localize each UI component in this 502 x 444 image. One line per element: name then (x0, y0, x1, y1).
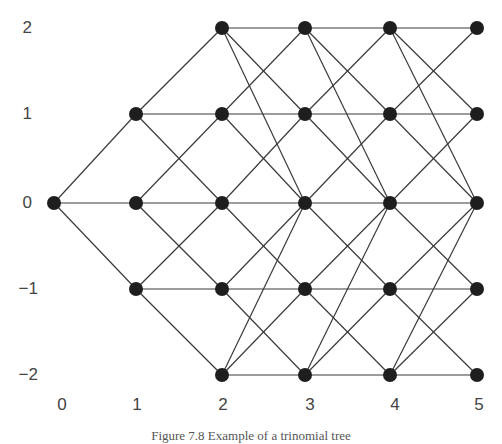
y-tick-label: 2 (2, 19, 32, 36)
tree-node (129, 282, 143, 296)
x-tick-label: 0 (52, 396, 72, 413)
tree-node (298, 282, 312, 296)
tree-node (215, 368, 229, 382)
tree-edge (54, 114, 136, 203)
x-tick-label: 2 (213, 396, 233, 413)
tree-node (470, 107, 484, 121)
tree-node (215, 21, 229, 35)
tree-node (470, 368, 484, 382)
tree-node (47, 196, 61, 210)
tree-node (298, 21, 312, 35)
y-tick-label: −2 (8, 366, 38, 383)
tree-node (129, 196, 143, 210)
tree-node (383, 368, 397, 382)
tree-edge (390, 28, 477, 203)
tree-node (215, 107, 229, 121)
tree-node (383, 196, 397, 210)
y-tick-label: −1 (8, 280, 38, 297)
tree-node (470, 196, 484, 210)
y-tick-label: 0 (2, 194, 32, 211)
tree-node (215, 282, 229, 296)
tree-node (383, 282, 397, 296)
x-tick-label: 4 (385, 396, 405, 413)
tree-edge (136, 289, 222, 375)
tree-edge (305, 28, 390, 203)
figure-caption: Figure 7.8 Example of a trinomial tree (0, 428, 502, 444)
tree-node (298, 107, 312, 121)
tree-node (470, 21, 484, 35)
tree-edge (222, 28, 305, 203)
tree-edges (54, 28, 477, 375)
tree-node (215, 196, 229, 210)
tree-edge (54, 203, 136, 289)
tree-node (129, 107, 143, 121)
x-tick-label: 3 (300, 396, 320, 413)
tree-edge (136, 28, 222, 114)
tree-node (383, 21, 397, 35)
tree-node (298, 196, 312, 210)
x-tick-label: 5 (469, 396, 489, 413)
tree-nodes (47, 21, 484, 382)
x-tick-label: 1 (127, 396, 147, 413)
tree-node (298, 368, 312, 382)
tree-node (383, 107, 397, 121)
y-tick-label: 1 (2, 105, 32, 122)
tree-node (470, 282, 484, 296)
